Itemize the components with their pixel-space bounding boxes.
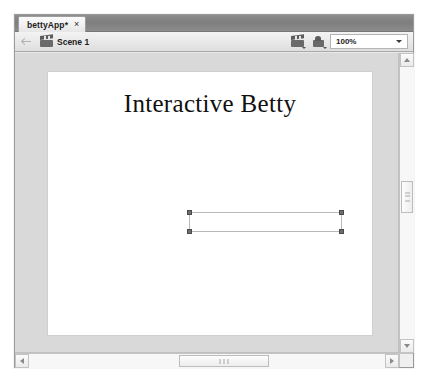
vertical-scrollbar[interactable] — [399, 53, 413, 353]
close-icon[interactable]: × — [74, 20, 79, 29]
stage[interactable]: Interactive Betty — [48, 72, 372, 335]
scrollbar-corner — [399, 353, 413, 367]
scroll-left-arrow-icon[interactable] — [15, 354, 29, 368]
document-tab-label: bettyApp* — [27, 20, 68, 30]
scene-label: Scene 1 — [57, 37, 89, 47]
zoom-level-value: 100% — [336, 37, 396, 46]
horizontal-scrollbar-track[interactable] — [29, 354, 385, 368]
horizontal-scrollbar-thumb[interactable] — [179, 355, 269, 367]
document-tab-strip: bettyApp* × — [15, 15, 413, 32]
back-arrow-icon[interactable] — [21, 36, 32, 47]
scroll-right-arrow-icon[interactable] — [385, 354, 399, 368]
grip-icon — [220, 359, 229, 364]
chevron-down-icon — [323, 47, 327, 49]
stage-title-text[interactable]: Interactive Betty — [48, 90, 372, 118]
triangle-up-icon — [404, 58, 410, 62]
flash-document-window: bettyApp* × Scene 1 — [14, 14, 414, 368]
horizontal-scrollbar[interactable] — [15, 353, 399, 367]
stage-viewport[interactable]: Interactive Betty — [15, 53, 399, 353]
clapper-icon — [40, 36, 53, 47]
scroll-down-arrow-icon[interactable] — [400, 339, 414, 353]
edit-bar-right-group: 100% — [288, 32, 413, 51]
grip-icon — [405, 193, 410, 202]
triangle-left-icon — [20, 358, 24, 364]
edit-symbols-icon[interactable] — [309, 34, 327, 50]
zoom-level-dropdown[interactable]: 100% — [330, 34, 408, 49]
work-area: Interactive Betty — [15, 53, 413, 367]
vertical-scrollbar-thumb[interactable] — [401, 181, 413, 213]
vertical-scrollbar-track[interactable] — [400, 67, 414, 339]
clapper-icon — [291, 36, 304, 47]
document-tab-bettyapp[interactable]: bettyApp* × — [18, 16, 86, 32]
triangle-right-icon — [390, 358, 394, 364]
resize-handle-bottom-left[interactable] — [187, 229, 192, 234]
edit-bar: Scene 1 100% — [15, 32, 413, 52]
triangle-down-icon — [404, 344, 410, 348]
text-field-selection[interactable] — [189, 212, 342, 232]
scroll-up-arrow-icon[interactable] — [400, 53, 414, 67]
symbol-icon — [312, 36, 324, 47]
breadcrumb-scene-1[interactable]: Scene 1 — [40, 36, 89, 47]
resize-handle-top-right[interactable] — [339, 210, 344, 215]
resize-handle-bottom-right[interactable] — [339, 229, 344, 234]
edit-scene-icon[interactable] — [288, 34, 306, 50]
chevron-down-icon — [396, 40, 402, 43]
chevron-down-icon — [302, 47, 306, 49]
resize-handle-top-left[interactable] — [187, 210, 192, 215]
